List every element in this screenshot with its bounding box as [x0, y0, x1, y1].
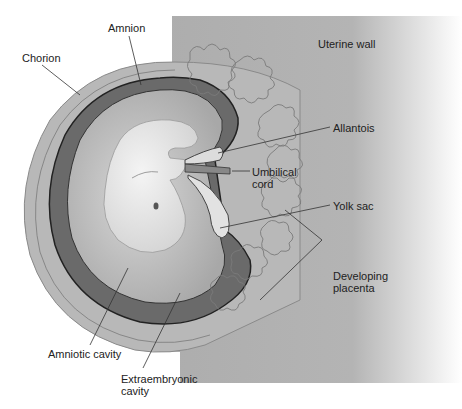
label-chorion: Chorion	[22, 52, 61, 64]
label-umbilical-cord: Umbilical cord	[252, 166, 297, 190]
label-uterine-wall: Uterine wall	[318, 38, 375, 50]
label-yolk-sac: Yolk sac	[333, 200, 374, 212]
label-extraembryonic-cavity: Extraembryonic cavity	[121, 373, 197, 397]
embryo-eye	[154, 203, 159, 210]
label-allantois: Allantois	[333, 122, 375, 134]
label-amniotic-cavity: Amniotic cavity	[48, 348, 121, 360]
diagram: Amnion Chorion Uterine wall Allantois Um…	[0, 0, 462, 409]
label-amnion: Amnion	[108, 22, 145, 34]
label-developing-placenta: Developing placenta	[333, 270, 388, 294]
